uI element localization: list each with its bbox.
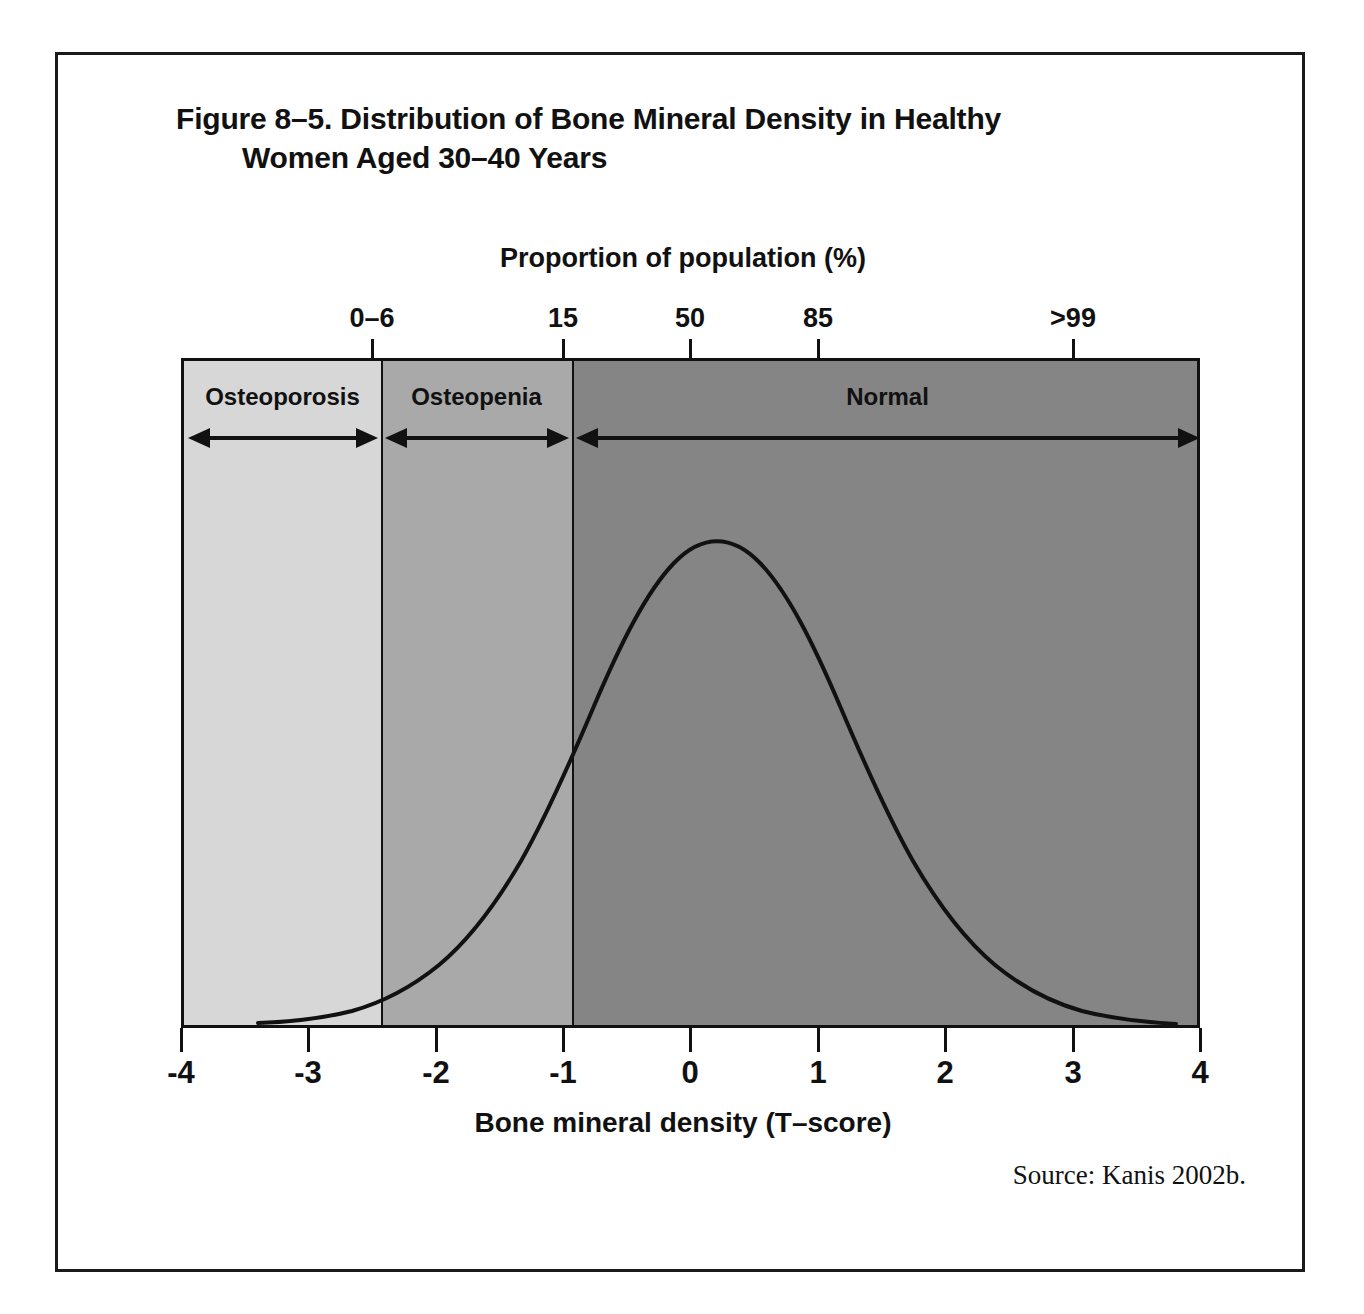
x-tick-mark-4 (1199, 1028, 1202, 1052)
top-tick-mark-50 (689, 339, 692, 358)
plot-area: Osteoporosis Osteopenia Normal (181, 358, 1200, 1028)
x-tick-mark-1 (817, 1028, 820, 1052)
x-tick-mark-2 (944, 1028, 947, 1052)
top-axis-title: Proportion of population (%) (58, 243, 1308, 274)
chart-area: Proportion of population (%) 0–6 15 50 8… (58, 55, 1308, 1275)
x-tick-mark--1 (562, 1028, 565, 1052)
x-tick-label-3: 3 (1064, 1055, 1081, 1091)
figure-frame: Figure 8–5. Distribution of Bone Mineral… (55, 52, 1305, 1272)
source-note: Source: Kanis 2002b. (1013, 1160, 1246, 1191)
x-tick-mark-0 (689, 1028, 692, 1052)
x-tick-mark--4 (180, 1028, 183, 1052)
top-tick-mark-gt99 (1072, 339, 1075, 358)
x-tick-mark--2 (435, 1028, 438, 1052)
top-tick-label-50: 50 (675, 303, 705, 334)
x-tick-mark--3 (307, 1028, 310, 1052)
bmd-distribution-curve (184, 361, 1200, 1028)
top-tick-mark-15 (562, 339, 565, 358)
top-tick-label-85: 85 (803, 303, 833, 334)
x-tick-label-2: 2 (936, 1055, 953, 1091)
x-tick-label-4: 4 (1191, 1055, 1208, 1091)
x-tick-label--3: -3 (294, 1055, 322, 1091)
x-axis-title: Bone mineral density (T–score) (58, 1107, 1308, 1139)
x-tick-label--4: -4 (167, 1055, 195, 1091)
x-tick-label-1: 1 (809, 1055, 826, 1091)
top-tick-label-15: 15 (548, 303, 578, 334)
top-tick-label-0-6: 0–6 (349, 303, 394, 334)
x-tick-label--1: -1 (549, 1055, 577, 1091)
top-tick-mark-0-6 (371, 339, 374, 358)
x-tick-label-0: 0 (681, 1055, 698, 1091)
x-tick-label--2: -2 (422, 1055, 450, 1091)
top-tick-mark-85 (817, 339, 820, 358)
top-tick-label-gt99: >99 (1050, 303, 1096, 334)
x-tick-mark-3 (1072, 1028, 1075, 1052)
